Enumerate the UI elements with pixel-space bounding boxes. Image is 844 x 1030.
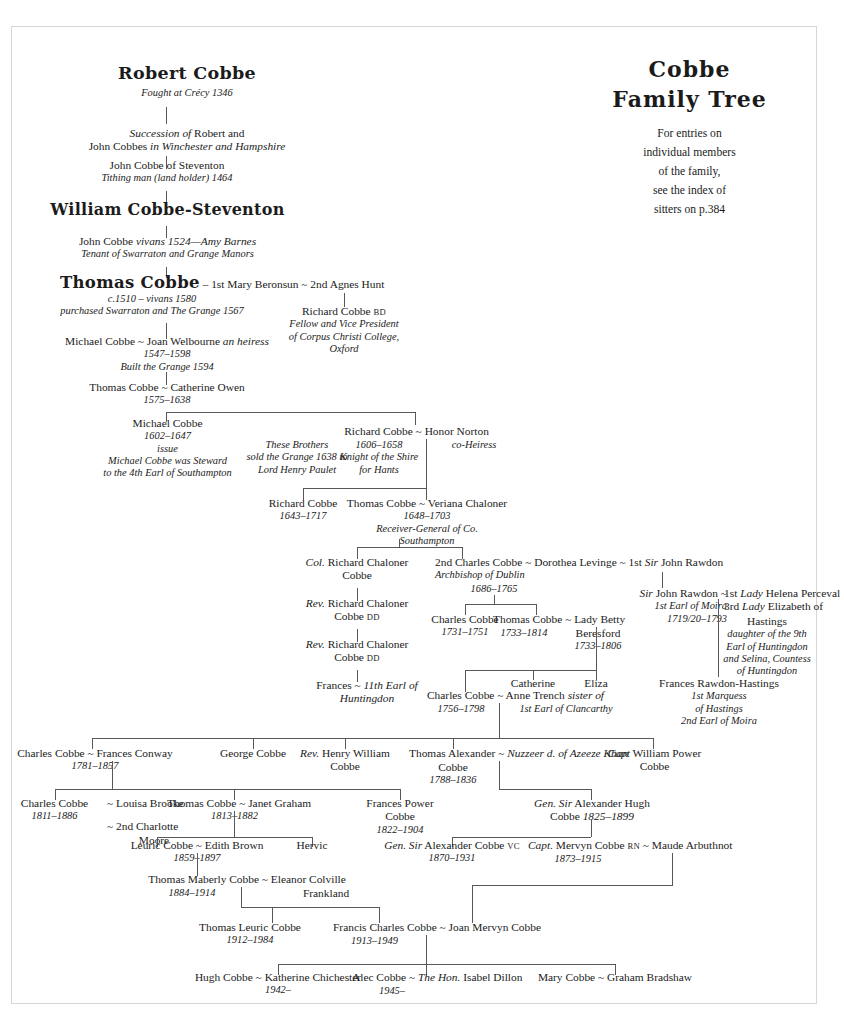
person-dates: 1822–1904 [352, 824, 448, 836]
person-thomas-cobbe-1510: Thomas Cobbe – 1st Mary Beronsun ~ 2nd A… [60, 273, 400, 293]
person-charles-cobbe-1811: Charles Cobbe 1811–1886 [2, 797, 107, 823]
person-dates: 1811–1886 [2, 810, 107, 822]
person-name: Richard Cobbe BD [264, 305, 424, 318]
person-dates: c.1510 – vivans 1580 [32, 293, 272, 305]
person-succession: Succession of Robert and John Cobbes in … [27, 127, 347, 154]
succession-line-2: John Cobbes in Winchester and Hampshire [27, 140, 347, 153]
person-dates: 1606–1658 [324, 439, 434, 451]
person-note: Tithing man (land holder) 1464 [42, 172, 292, 184]
person-name: Michael Cobbe ~ Joan Welbourne an heires… [32, 335, 302, 348]
person-thomas-alexander-detail: Cobbe 1788–1836 [409, 761, 497, 787]
spouse-anne-trench-note: 1st Earl of Clancarthy [504, 703, 628, 715]
person-capt-mervyn-dates: 1873–1915 [528, 853, 628, 865]
tree-canvas: Cobbe Family Tree For entries on individ… [12, 27, 818, 1005]
connector-v [426, 439, 427, 489]
person-name: Robert Cobbe [42, 63, 332, 84]
person-robert-cobbe: Robert Cobbe Fought at Crécy 1346 [42, 63, 332, 99]
title-line-2: Family Tree [572, 85, 807, 115]
person-dates: 1942– [187, 984, 369, 996]
person-name: Thomas Leuric Cobbe [180, 921, 320, 934]
connector-h [499, 789, 591, 790]
connector-h [55, 789, 400, 790]
connector-h [166, 412, 415, 413]
title-block: Cobbe Family Tree For entries on individ… [572, 55, 807, 219]
person-name: Thomas Alexander ~ Nuzzeer d. of Azeeze … [409, 747, 609, 760]
person-charles-cobbe-1756: Charles Cobbe ~ Anne Trench sister of [427, 689, 617, 702]
person-charles-cobbe-1756-dates: 1756–1798 [427, 703, 495, 715]
person-name: Frances Power [352, 797, 448, 810]
person-name: Hervic [287, 839, 337, 852]
person-charles-cobbe-archbishop-dates: 1686–1765 [435, 583, 553, 595]
person-name: John Cobbe of Steventon [42, 159, 292, 172]
person-name: Gen. Sir Alexander Cobbe VC [382, 839, 522, 852]
connector-v [472, 885, 473, 923]
person-col-richard-chaloner: Col. Richard Chaloner Cobbe [294, 556, 420, 583]
connector-v [166, 107, 167, 124]
connector-h [472, 885, 673, 886]
person-francis-charles-dates: 1913–1949 [322, 935, 427, 947]
person-capt-william-power-cobbe: Capt William Power Cobbe [602, 747, 707, 774]
person-note: Tenant of Swarraton and Grange Manors [30, 248, 305, 260]
spouse-honor-norton-note: co-Heiress [434, 439, 514, 451]
person-dates: 1648–1703 [338, 510, 516, 522]
person-dates: 1870–1931 [382, 852, 522, 864]
person-thomas-leuric-cobbe: Thomas Leuric Cobbe 1912–1984 [180, 921, 320, 947]
connector-v [241, 887, 242, 908]
person-rev-richard-chaloner-2: Rev. Richard Chaloner Cobbe DD [294, 638, 420, 665]
person-dates: 1547–1598 [32, 348, 302, 360]
connector-h [272, 907, 379, 908]
person-name: John Cobbe vivans 1524—Amy Barnes [30, 235, 305, 248]
connector-v [591, 819, 592, 837]
person-name: Charles Cobbe ~ Anne Trench sister of [427, 689, 617, 702]
succession-line-1: Succession of Robert and [27, 127, 347, 140]
person-name: Col. Richard Chaloner [294, 556, 420, 569]
connector-v [672, 853, 673, 886]
person-rev-henry-william-cobbe: Rev. Henry William Cobbe [287, 747, 403, 774]
person-name: William Cobbe-Steventon [30, 201, 305, 220]
connector-h [357, 547, 462, 548]
person-name: Mary Cobbe ~ Graham Bradshaw [537, 971, 693, 984]
title-note: For entries on individual members of the… [572, 125, 807, 219]
connector-v [234, 811, 235, 838]
person-note: Archbishop of Dublin [435, 569, 695, 581]
person-name: Richard Cobbe ~ Honor Norton [324, 425, 509, 438]
connector-h [157, 837, 312, 838]
person-name: Gen. Sir Alexander Hugh [512, 797, 672, 810]
person-frances-huntingdon: Frances ~ 11th Earl of Huntingdon [302, 679, 432, 706]
spouse-rawdon-2-detail: Hastings daughter of the 9th Earl of Hun… [702, 615, 832, 678]
person-name-row: Thomas Cobbe – 1st Mary Beronsun ~ 2nd A… [60, 273, 400, 293]
person-thomas-alexander-cobbe: Thomas Alexander ~ Nuzzeer d. of Azeeze … [409, 747, 609, 760]
connector-v [415, 412, 416, 425]
connector-h [92, 738, 653, 739]
person-john-cobbe-steventon: John Cobbe of Steventon Tithing man (lan… [42, 159, 292, 185]
person-name: Leuric Cobbe ~ Edith Brown [117, 839, 277, 852]
person-note: purchased Swarraton and The Grange 1567 [32, 305, 272, 317]
connector-v [662, 572, 663, 588]
person-name: Alec Cobbe ~ The Hon. Isabel Dillon [352, 971, 502, 984]
person-gen-sir-alexander-cobbe-vc: Gen. Sir Alexander Cobbe VC 1870–1931 [382, 839, 522, 865]
connector-v [499, 703, 500, 739]
connector-v [399, 539, 400, 547]
person-frances-rawdon-hastings: Frances Rawdon-Hastings 1st Marquess of … [648, 677, 790, 727]
person-richard-cobbe-1606-detail: 1606–1658 Knight of the Shire for Hants [324, 439, 434, 476]
person-name: Hugh Cobbe ~ Katherine Chichester [187, 971, 369, 984]
person-name: Rev. Henry William [287, 747, 403, 760]
person-note: Fought at Crécy 1346 [42, 87, 332, 99]
person-thomas-cobbe-1733-dates: 1733–1814 [493, 627, 555, 639]
person-name: Michael Cobbe [70, 417, 265, 430]
person-name: Rev. Richard Chaloner [294, 597, 420, 610]
person-thomas-cobbe-1575: Thomas Cobbe ~ Catherine Owen 1575–1638 [47, 381, 287, 407]
spouse-lady-betty-beresford: Beresford 1733–1806 [562, 627, 634, 653]
title-line-1: Cobbe [572, 55, 807, 85]
person-name: Rev. Richard Chaloner [294, 638, 420, 651]
connector-h [465, 604, 536, 605]
person-mary-cobbe: Mary Cobbe ~ Graham Bradshaw [537, 971, 693, 984]
person-name: Charles Cobbe ~ Frances Conway [15, 747, 175, 760]
connector-h [465, 670, 597, 671]
person-dates: 1912–1984 [180, 934, 320, 946]
person-name: Francis Charles Cobbe ~ Joan Mervyn Cobb… [322, 921, 552, 934]
person-rev-richard-chaloner-1: Rev. Richard Chaloner Cobbe DD [294, 597, 420, 624]
connector-h [278, 964, 615, 965]
connector-h [452, 837, 591, 838]
person-michael-cobbe-1547: Michael Cobbe ~ Joan Welbourne an heires… [32, 335, 302, 373]
